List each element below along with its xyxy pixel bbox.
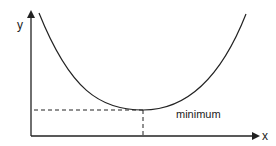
y-axis-label: y xyxy=(17,18,23,32)
minimum-label: minimum xyxy=(176,108,221,120)
minimum-diagram: y x minimum xyxy=(0,0,276,146)
x-axis-label: x xyxy=(262,129,268,143)
parabola-curve xyxy=(39,13,246,110)
